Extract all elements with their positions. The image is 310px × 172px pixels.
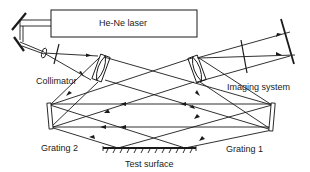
test-surface xyxy=(103,146,196,153)
laser-label: He-Ne laser xyxy=(99,19,147,28)
test-surface-label: Test surface xyxy=(125,160,174,169)
imaging-lens xyxy=(188,55,206,83)
grating-2 xyxy=(47,103,53,129)
collimator-label: Collimator xyxy=(36,77,77,86)
fold-mirror-2 xyxy=(14,37,24,51)
grating-1-label: Grating 1 xyxy=(226,145,263,154)
fold-mirror-1 xyxy=(12,13,26,30)
grating-2-label: Grating 2 xyxy=(41,144,78,153)
imaging-system-label: Imaging system xyxy=(227,83,290,92)
imaging-screen xyxy=(281,19,294,64)
grating-1 xyxy=(269,103,275,131)
